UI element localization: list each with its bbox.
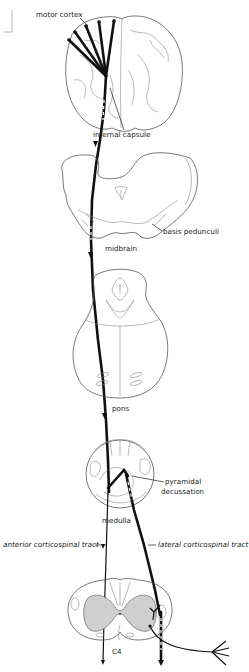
- label-internal-capsule: internal capsule: [93, 130, 151, 139]
- label-decussation: decussation: [161, 487, 204, 496]
- arrow-down-icon: [158, 660, 164, 666]
- arrow-down-icon: [93, 141, 98, 147]
- label-spinal-level-c4: C4: [112, 647, 122, 656]
- scale-bar-mark: [4, 10, 12, 32]
- label-medulla: medulla: [102, 516, 131, 525]
- label-pons: pons: [112, 404, 130, 413]
- midbrain-section: [62, 153, 198, 239]
- label-motor-cortex: motor cortex: [36, 10, 83, 19]
- arrow-down-icon: [101, 660, 105, 665]
- label-basis-pedunculi: basis pedunculi: [163, 227, 219, 236]
- pons-section: [73, 269, 168, 398]
- label-pyramidal: pyramidal: [165, 477, 201, 486]
- label-midbrain: midbrain: [105, 244, 137, 253]
- label-lateral-corticospinal-tract: lateral corticospinal tract: [158, 540, 249, 549]
- corticospinal-diagram: motor cortex internal capsule basis pedu…: [0, 0, 249, 672]
- cerebrum-section: [66, 16, 183, 131]
- label-anterior-corticospinal-tract: anterior corticospinal tract: [3, 540, 100, 549]
